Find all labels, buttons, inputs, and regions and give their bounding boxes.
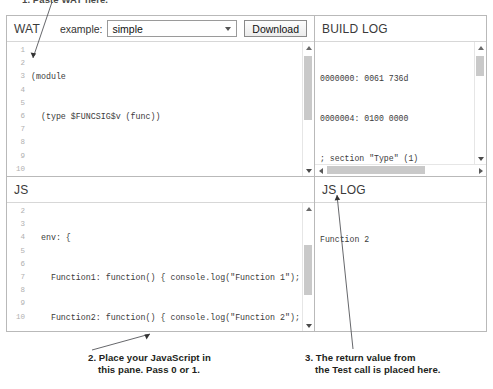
js-pane-title: JS [14, 183, 28, 197]
scroll-up-icon[interactable] [303, 43, 314, 52]
code-line [31, 150, 314, 163]
scroll-down-icon[interactable] [475, 154, 486, 163]
wat-vertical-scrollbar[interactable] [302, 42, 314, 176]
js-pane-header: JS [7, 177, 314, 203]
leader-arrow-2 [144, 334, 150, 340]
top-caption: 1. Paste WAT here. [22, 0, 108, 5]
line-number: 6 [7, 258, 25, 271]
line-number: 4 [7, 84, 25, 97]
scroll-up-icon[interactable] [303, 204, 314, 213]
code-line: env: { [31, 231, 314, 244]
line-number: 10 [7, 311, 25, 324]
line-number: 3 [7, 218, 25, 231]
line-number: 9 [7, 297, 25, 310]
scroll-up-icon[interactable] [475, 43, 486, 52]
build-log-title: BUILD LOG [322, 22, 388, 36]
wat-line-numbers: 1 2 3 4 5 6 7 8 9 10 [7, 42, 28, 176]
js-pane: JS 2 3 4 5 6 7 8 9 10 [7, 177, 314, 331]
line-number: 3 [7, 70, 25, 83]
js-line-numbers: 2 3 4 5 6 7 8 9 10 [7, 203, 28, 331]
line-number: 1 [7, 44, 25, 57]
scroll-left-icon[interactable] [316, 165, 325, 176]
line-number: 7 [7, 123, 25, 136]
scrollbar-thumb[interactable] [327, 166, 425, 174]
chevron-down-icon [225, 27, 231, 31]
js-code-area[interactable]: 2 3 4 5 6 7 8 9 10 env: { Function1: fun… [7, 203, 314, 331]
build-log-body-wrap: 0000000: 0061 736d 0000004: 0100 0000 ; … [315, 42, 486, 164]
line-number: 2 [7, 205, 25, 218]
scroll-down-icon[interactable] [303, 321, 314, 330]
code-line: Function1: function() { console.log("Fun… [31, 271, 314, 284]
line-number: 10 [7, 163, 25, 176]
scroll-right-icon[interactable] [476, 165, 485, 176]
wat-code-area[interactable]: 1 2 3 4 5 6 7 8 9 10 (module (type $FUNC… [7, 42, 314, 176]
wat-pane: WAT example: simple Download 1 2 3 4 5 [7, 16, 314, 176]
scrollbar-thumb[interactable] [476, 56, 484, 76]
callout-3-line2: the Test call is placed here. [305, 364, 441, 376]
build-log-vertical-scrollbar[interactable] [474, 42, 486, 164]
line-number: 4 [7, 231, 25, 244]
callout-2-line2: this pane. Pass 0 or 1. [88, 364, 211, 376]
callout-3-line1: 3. The return value from [305, 352, 416, 363]
scroll-down-icon[interactable] [303, 166, 314, 175]
scrollbar-thumb[interactable] [304, 56, 312, 120]
callout-3: 3. The return value from the Test call i… [305, 352, 441, 376]
app-frame: WAT example: simple Download 1 2 3 4 5 [6, 15, 487, 332]
log-line: Function 2 [320, 233, 486, 246]
js-editor[interactable]: 2 3 4 5 6 7 8 9 10 env: { Function1: fun… [7, 203, 314, 331]
line-number: 5 [7, 97, 25, 110]
line-number: 9 [7, 150, 25, 163]
callout-2: 2. Place your JavaScript in this pane. P… [88, 352, 211, 376]
example-select-value: simple [113, 23, 143, 35]
line-number: 5 [7, 245, 25, 258]
log-line: 0000004: 0100 0000 [320, 112, 486, 125]
build-log-pane: BUILD LOG 0000000: 0061 736d 0000004: 01… [314, 16, 486, 176]
build-log-output: 0000000: 0061 736d 0000004: 0100 0000 ; … [315, 42, 486, 164]
download-button[interactable]: Download [244, 20, 307, 37]
scrollbar-thumb[interactable] [304, 245, 312, 295]
code-line: (module [31, 70, 314, 83]
build-log-header: BUILD LOG [315, 16, 486, 42]
line-number: 2 [7, 57, 25, 70]
example-label: example: [60, 23, 103, 35]
js-log-output: Function 2 [315, 203, 486, 331]
wat-pane-title: WAT [14, 22, 40, 36]
line-number: 8 [7, 284, 25, 297]
log-line: ; section "Type" (1) [320, 152, 486, 164]
js-log-title: JS LOG [322, 183, 366, 197]
js-vertical-scrollbar[interactable] [302, 203, 314, 331]
build-log-horizontal-scrollbar[interactable] [315, 164, 486, 176]
log-line: 0000000: 0061 736d [320, 72, 486, 85]
js-log-pane: JS LOG Function 2 [314, 177, 486, 331]
wat-code-lines[interactable]: (module (type $FUNCSIG$v (func)) (import… [28, 42, 314, 176]
bottom-row: JS 2 3 4 5 6 7 8 9 10 [7, 176, 486, 331]
callout-2-line1: 2. Place your JavaScript in [88, 352, 211, 363]
code-line: (type $FUNCSIG$v (func)) [31, 110, 314, 123]
line-number: 7 [7, 271, 25, 284]
js-code-lines[interactable]: env: { Function1: function() { console.l… [28, 203, 314, 331]
example-select[interactable]: simple [107, 20, 238, 37]
line-number: 8 [7, 136, 25, 149]
leader-line-2 [92, 334, 150, 350]
wat-editor[interactable]: 1 2 3 4 5 6 7 8 9 10 (module (type $FUNC… [7, 42, 314, 176]
js-log-header: JS LOG [315, 177, 486, 203]
wat-toolbar: WAT example: simple Download [7, 16, 314, 42]
line-number: 6 [7, 110, 25, 123]
code-line: Function2: function() { console.log("Fun… [31, 311, 314, 324]
top-row: WAT example: simple Download 1 2 3 4 5 [7, 16, 486, 176]
